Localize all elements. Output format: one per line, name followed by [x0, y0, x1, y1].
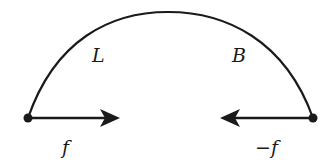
left-force-label: f: [60, 136, 72, 158]
arc-label-left: L: [91, 44, 105, 66]
right-force-label: −f: [255, 136, 281, 158]
diagram: L B f −f: [0, 0, 330, 167]
arc-curve: [28, 12, 313, 118]
arc-label-right: B: [231, 44, 246, 66]
